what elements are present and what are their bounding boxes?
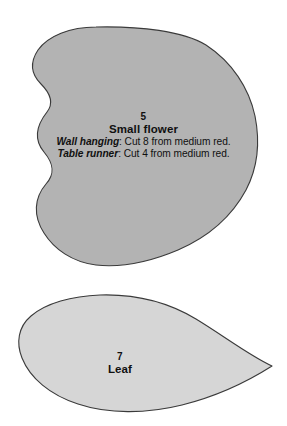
small-flower-label: 5 Small flower Wall hanging: Cut 8 from …	[0, 112, 287, 159]
instruction-text-table-runner: Cut 4 from medium red.	[121, 148, 230, 159]
small-flower-number: 5	[0, 112, 287, 123]
instruction-text-wall-hanging: Cut 8 from medium red.	[122, 136, 231, 147]
instruction-context-wall-hanging: Wall hanging	[56, 136, 119, 147]
small-flower-instruction-table-runner: Table runner: Cut 4 from medium red.	[0, 148, 287, 159]
instruction-context-table-runner: Table runner	[57, 148, 118, 159]
leaf-number: 7	[0, 352, 240, 363]
small-flower-name: Small flower	[0, 123, 287, 135]
leaf-label: 7 Leaf	[0, 352, 240, 375]
pattern-sheet: 5 Small flower Wall hanging: Cut 8 from …	[0, 0, 287, 426]
leaf-name: Leaf	[0, 363, 240, 375]
small-flower-instruction-wall-hanging: Wall hanging: Cut 8 from medium red.	[0, 136, 287, 147]
